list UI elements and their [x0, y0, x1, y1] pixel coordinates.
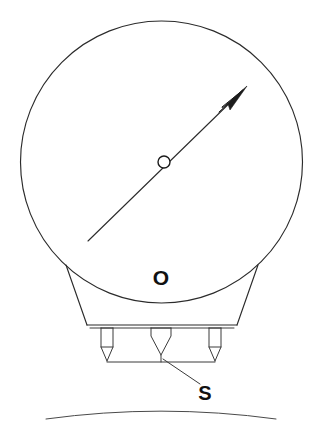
rotor-hub-circle [158, 156, 170, 168]
surface-leader-line [163, 359, 200, 384]
technical-diagram: O S [0, 0, 321, 430]
earth-surface-arc [46, 411, 276, 419]
spin-axis-arrow-barb-two [219, 95, 238, 112]
rotor-label-o: O [153, 266, 169, 289]
figure-root: O S [0, 0, 321, 430]
surface-label-s: S [198, 382, 211, 404]
support-leg-left [101, 328, 113, 361]
support-leg-middle [151, 328, 171, 362]
support-leg-right [209, 328, 221, 361]
